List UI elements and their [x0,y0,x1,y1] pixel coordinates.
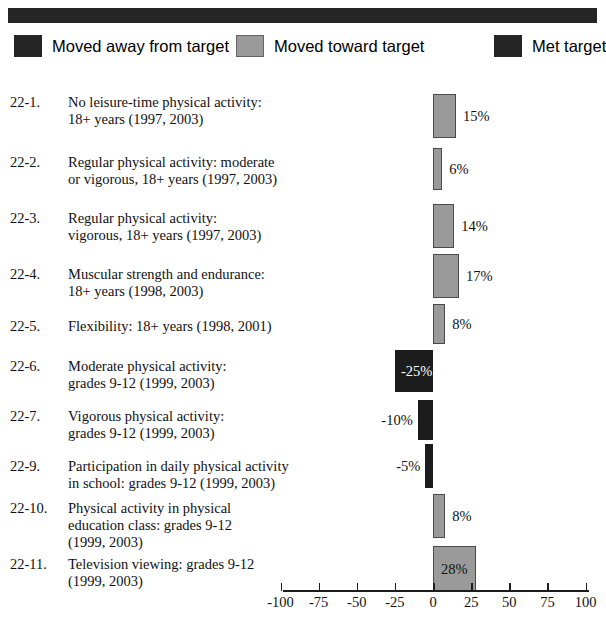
x-axis-tick-label: -50 [347,594,366,611]
x-axis-tick-label: -100 [267,594,294,611]
row-description-line: Physical activity in physical [68,500,231,516]
row-description-line: in school: grades 9-12 (1999, 2003) [68,475,410,492]
bar-value-label: -25% [401,364,432,379]
row-index: 22-7. [10,408,68,425]
row-description: No leisure-time physical activity:18+ ye… [68,94,410,128]
row-index: 22-6. [10,358,68,375]
row-description-line: 18+ years (1997, 2003) [68,111,410,128]
x-axis-tick-label: 100 [575,594,597,611]
row-description-line: grades 9-12 (1999, 2003) [68,425,410,442]
x-axis-tick-label: -75 [309,594,328,611]
row-description-line: education class: grades 9-12 [68,517,410,534]
row-index: 22-2. [10,154,68,171]
row-description: Vigorous physical activity:grades 9-12 (… [68,408,410,442]
row-index: 22-9. [10,458,68,475]
x-axis-tick-label: 75 [540,594,555,611]
legend-swatch-moved-away-icon [14,35,42,57]
legend-swatch-moved-toward-icon [236,35,264,57]
row-description-line: Participation in daily physical activity [68,458,289,474]
bar-value-label: 28% [441,562,468,577]
row-index: 22-11. [10,556,68,573]
row-description-line: Muscular strength and endurance: [68,266,265,282]
bar [418,400,433,440]
bar [433,494,445,538]
row-description: Participation in daily physical activity… [68,458,410,492]
row-label: 22-10.Physical activity in physicaleduca… [10,500,410,551]
row-index: 22-5. [10,318,68,335]
x-axis-tick-label: 0 [429,594,436,611]
row-index: 22-4. [10,266,68,283]
header-band [8,8,597,23]
bar-value-label: 8% [452,509,471,524]
row-description-line: Moderate physical activity: [68,358,227,374]
row-description-line: Television viewing: grades 9-12 [68,556,254,572]
legend-label-moved-toward: Moved toward target [274,37,424,56]
row-index: 22-10. [10,500,68,517]
bar-value-label: -10% [381,413,412,428]
row-index: 22-3. [10,210,68,227]
bar-value-label: 15% [463,109,490,124]
x-axis: -100-75-50-250255075100 [0,583,605,625]
row-description: Regular physical activity: moderateor vi… [68,154,410,188]
x-axis-tick [357,583,359,591]
row-description-line: vigorous, 18+ years (1997, 2003) [68,227,410,244]
bar-value-label: -5% [396,459,420,474]
chart-plot-area: 22-1.No leisure-time physical activity:1… [0,86,605,583]
x-axis-tick [281,583,283,591]
bar [425,444,433,488]
legend-item-moved-away: Moved away from target [14,31,229,61]
row-description: Muscular strength and endurance:18+ year… [68,266,410,300]
row-description-line: Regular physical activity: [68,210,217,226]
row-description-line: Regular physical activity: moderate [68,154,275,170]
bar [433,94,456,138]
bar [433,254,459,298]
bar-value-label: 8% [452,317,471,332]
x-axis-tick-label: 50 [502,594,517,611]
row-description-line: Vigorous physical activity: [68,408,224,424]
bar-value-label: 14% [461,219,488,234]
legend-label-met-target: Met target [532,37,606,56]
legend-item-met-target: Met target [494,31,606,61]
x-axis-tick [395,583,397,591]
x-axis-tick [586,583,588,591]
row-label: 22-5.Flexibility: 18+ years (1998, 2001) [10,318,410,335]
row-description: Physical activity in physicaleducation c… [68,500,410,551]
row-description-line: grades 9-12 (1999, 2003) [68,375,410,392]
legend-item-moved-toward: Moved toward target [236,31,424,61]
legend-label-moved-away: Moved away from target [52,37,229,56]
chart-legend: Moved away from target Moved toward targ… [0,31,605,61]
row-label: 22-6.Moderate physical activity:grades 9… [10,358,410,392]
row-description-line: Flexibility: 18+ years (1998, 2001) [68,318,272,334]
row-label: 22-2.Regular physical activity: moderate… [10,154,410,188]
row-description-line: or vigorous, 18+ years (1997, 2003) [68,171,410,188]
x-axis-line [283,590,589,592]
x-axis-tick [433,583,435,591]
row-description-line: 18+ years (1998, 2003) [68,283,410,300]
row-label: 22-4.Muscular strength and endurance:18+… [10,266,410,300]
bar-value-label: 6% [449,162,468,177]
row-label: 22-9.Participation in daily physical act… [10,458,410,492]
bar [433,148,442,190]
x-axis-tick [547,583,549,591]
bar [433,304,445,344]
x-axis-tick [509,583,511,591]
x-axis-tick [471,583,473,591]
x-axis-tick-label: -25 [385,594,404,611]
legend-swatch-met-target-icon [494,35,522,57]
row-description: Flexibility: 18+ years (1998, 2001) [68,318,410,335]
row-index: 22-1. [10,94,68,111]
bar-value-label: 17% [466,269,493,284]
bar [433,204,454,248]
row-description: Regular physical activity:vigorous, 18+ … [68,210,410,244]
x-axis-tick [319,583,321,591]
x-axis-tick-label: 25 [464,594,479,611]
row-label: 22-3.Regular physical activity:vigorous,… [10,210,410,244]
row-description: Moderate physical activity:grades 9-12 (… [68,358,410,392]
row-description-line: No leisure-time physical activity: [68,94,262,110]
row-description-line: (1999, 2003) [68,534,410,551]
row-label: 22-7.Vigorous physical activity:grades 9… [10,408,410,442]
row-label: 22-1.No leisure-time physical activity:1… [10,94,410,128]
